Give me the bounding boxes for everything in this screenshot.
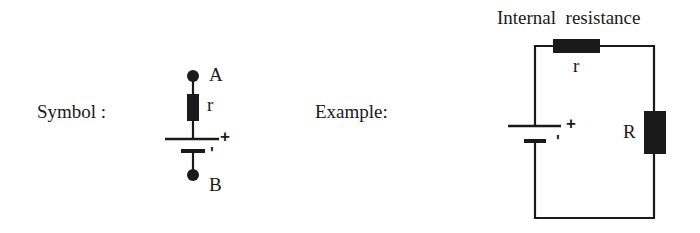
symbol-caption: Symbol :	[37, 102, 106, 121]
terminal-b-node	[187, 169, 199, 181]
example-internal-resistor-label: r	[573, 56, 579, 75]
example-minus-sign: '	[556, 134, 560, 150]
example-internal-resistor	[553, 39, 600, 53]
symbol-minus-sign: '	[210, 146, 214, 162]
symbol-plus-sign: +	[220, 128, 230, 145]
example-load-resistor	[644, 111, 666, 154]
example-plus-sign: +	[566, 115, 576, 132]
terminal-a-label: A	[209, 65, 223, 84]
example-caption: Example:	[315, 102, 388, 121]
example-load-resistor-label: R	[623, 122, 636, 141]
terminal-a-node	[187, 70, 199, 82]
symbol-resistor-label: r	[207, 95, 213, 114]
symbol-internal-resistor	[187, 94, 199, 121]
terminal-b-label: B	[209, 175, 222, 194]
example-circuit-wires	[535, 46, 654, 218]
example-title: Internal resistance	[497, 8, 640, 27]
